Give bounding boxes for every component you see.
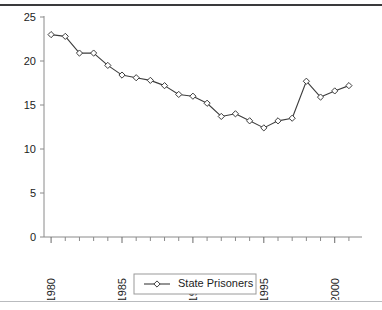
data-point-marker[interactable] xyxy=(147,77,153,83)
data-point-marker[interactable] xyxy=(332,88,338,94)
line-chart-svg: 0510152025 19801985199019952000 State Pr… xyxy=(0,8,382,300)
data-point-marker[interactable] xyxy=(247,118,253,124)
data-point-marker[interactable] xyxy=(190,93,196,99)
data-point-marker[interactable] xyxy=(275,118,281,124)
data-point-marker[interactable] xyxy=(119,72,125,78)
y-axis-tick-label: 5 xyxy=(30,187,36,199)
top-divider xyxy=(0,4,382,6)
data-point-marker[interactable] xyxy=(161,83,167,89)
x-axis-tick-label: 1985 xyxy=(116,278,128,300)
y-axis-tick-label: 25 xyxy=(24,11,36,23)
y-axis: 0510152025 xyxy=(24,11,44,243)
data-point-marker[interactable] xyxy=(176,91,182,97)
data-series-group xyxy=(48,32,352,131)
y-axis-tick-label: 15 xyxy=(24,99,36,111)
data-point-marker[interactable] xyxy=(261,125,267,131)
data-point-marker[interactable] xyxy=(133,75,139,81)
x-axis-tick-label: 2000 xyxy=(329,278,341,300)
y-axis-tick-label: 10 xyxy=(24,143,36,155)
data-point-marker[interactable] xyxy=(346,83,352,89)
data-point-marker[interactable] xyxy=(232,111,238,117)
x-axis-tick-label: 1995 xyxy=(258,278,270,300)
bottom-divider xyxy=(0,301,382,302)
data-point-marker[interactable] xyxy=(289,115,295,121)
chart-canvas: 0510152025 19801985199019952000 State Pr… xyxy=(0,8,382,300)
legend-entry-label: State Prisoners xyxy=(178,277,254,289)
chart-legend: State Prisoners xyxy=(134,274,256,294)
chart-page: 0510152025 19801985199019952000 State Pr… xyxy=(0,0,382,310)
x-axis-tick-label: 1980 xyxy=(45,278,57,300)
data-point-marker[interactable] xyxy=(48,32,54,38)
y-axis-tick-label: 0 xyxy=(30,231,36,243)
y-axis-tick-label: 20 xyxy=(24,55,36,67)
